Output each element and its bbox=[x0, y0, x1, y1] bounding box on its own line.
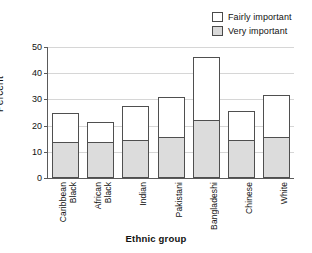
x-axis-label-bangladeshi: Bangladeshi bbox=[192, 182, 219, 238]
bar-black-caribbean[interactable] bbox=[52, 113, 79, 178]
bar-segment-very-important[interactable] bbox=[122, 140, 149, 178]
plot-area bbox=[47, 47, 294, 179]
gridline-50 bbox=[48, 47, 294, 48]
x-axis-label-line: Caribbean bbox=[58, 182, 68, 222]
x-axis-label-chinese: Chinese bbox=[227, 182, 254, 238]
bar-bangladeshi[interactable] bbox=[193, 57, 220, 178]
x-axis-label-line: White bbox=[279, 182, 289, 204]
bar-indian[interactable] bbox=[122, 106, 149, 178]
x-axis-label-line: Chinese bbox=[244, 182, 254, 214]
bar-segment-fairly-important[interactable] bbox=[52, 113, 79, 143]
bar-white[interactable] bbox=[263, 95, 290, 178]
chart-figure: Fairly important Very important 01020304… bbox=[0, 0, 312, 253]
bar-black-african[interactable] bbox=[87, 122, 114, 178]
legend-label-very-important: Very important bbox=[228, 26, 287, 36]
chart-legend: Fairly important Very important bbox=[212, 11, 292, 36]
legend-swatch-fairly-important bbox=[212, 12, 223, 22]
bar-segment-very-important[interactable] bbox=[87, 142, 114, 178]
y-tick-label-50: 50 bbox=[32, 43, 42, 52]
legend-item-fairly-important: Fairly important bbox=[212, 11, 292, 22]
bar-segment-very-important[interactable] bbox=[263, 137, 290, 178]
y-tick-label-0: 0 bbox=[37, 174, 42, 183]
y-tick-label-40: 40 bbox=[32, 69, 42, 78]
bar-pakistani[interactable] bbox=[158, 97, 185, 178]
bar-segment-very-important[interactable] bbox=[228, 140, 255, 178]
x-axis-title: Ethnic group bbox=[0, 233, 312, 244]
x-axis-label-line: Indian bbox=[138, 182, 148, 206]
legend-swatch-very-important bbox=[212, 26, 223, 36]
x-axis-label-pakistani: Pakistani bbox=[157, 182, 184, 238]
x-axis-label-line: African bbox=[93, 182, 103, 209]
bar-segment-fairly-important[interactable] bbox=[158, 97, 185, 138]
x-axis-label-line: Black bbox=[103, 182, 113, 203]
x-axis-label-line: Black bbox=[68, 182, 78, 203]
bar-segment-very-important[interactable] bbox=[158, 137, 185, 178]
x-axis-label-black-caribbean: BlackCaribbean bbox=[51, 182, 78, 238]
legend-item-very-important: Very important bbox=[212, 25, 292, 36]
y-tick-label-30: 30 bbox=[32, 95, 42, 104]
y-tick-label-20: 20 bbox=[32, 121, 42, 130]
y-axis-title: Percent bbox=[0, 76, 5, 112]
bar-segment-fairly-important[interactable] bbox=[87, 122, 114, 143]
legend-label-fairly-important: Fairly important bbox=[228, 12, 292, 22]
plot-inner bbox=[48, 47, 294, 178]
x-axis-labels: BlackCaribbeanBlackAfricanIndianPakistan… bbox=[47, 180, 293, 240]
bar-segment-fairly-important[interactable] bbox=[263, 95, 290, 139]
gridline-40 bbox=[48, 73, 294, 74]
y-tick-label-10: 10 bbox=[32, 147, 42, 156]
x-axis-label-indian: Indian bbox=[121, 182, 148, 238]
x-axis-label-line: Bangladeshi bbox=[209, 182, 219, 230]
y-axis: 01020304050 bbox=[0, 0, 47, 253]
bar-segment-fairly-important[interactable] bbox=[122, 106, 149, 142]
x-axis-label-white: White bbox=[262, 182, 289, 238]
bar-segment-fairly-important[interactable] bbox=[228, 111, 255, 141]
bar-chinese[interactable] bbox=[228, 111, 255, 178]
bar-segment-very-important[interactable] bbox=[193, 119, 220, 178]
bar-segment-very-important[interactable] bbox=[52, 142, 79, 178]
bar-segment-fairly-important[interactable] bbox=[193, 57, 220, 120]
x-axis-label-black-african: BlackAfrican bbox=[86, 182, 113, 238]
x-axis-label-line: Pakistani bbox=[174, 182, 184, 217]
